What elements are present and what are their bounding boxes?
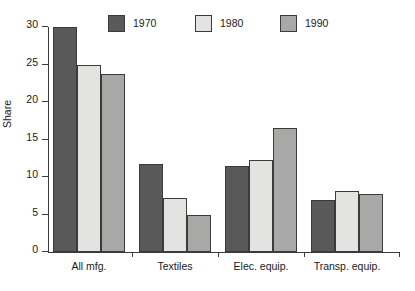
y-axis-tick: 10 bbox=[42, 176, 48, 177]
x-axis-label-all-mfg: All mfg. bbox=[71, 261, 106, 272]
bar-chart-figure: 1970 1980 1990 Share 051015202530 All mf… bbox=[0, 0, 415, 291]
bar-1980-transp-equip bbox=[335, 191, 359, 253]
bar-1990-elec-equip bbox=[273, 128, 297, 253]
x-axis-group-separator-tick bbox=[304, 252, 305, 257]
x-axis-end-tick bbox=[399, 252, 400, 257]
x-axis-group-separator-tick bbox=[132, 252, 133, 257]
y-axis-tick-label: 0 bbox=[32, 244, 38, 255]
y-axis-tick: 20 bbox=[42, 101, 48, 102]
y-axis-tick-label: 30 bbox=[26, 19, 38, 30]
bar-1990-all-mfg bbox=[101, 74, 125, 253]
x-axis-label-elec-equip: Elec. equip. bbox=[234, 261, 289, 272]
bar-1980-elec-equip bbox=[249, 160, 273, 252]
bar-1970-textiles bbox=[139, 164, 163, 252]
y-axis-label: Share bbox=[2, 100, 13, 128]
y-axis-tick-label: 15 bbox=[26, 132, 38, 143]
bar-1990-textiles bbox=[187, 215, 211, 253]
y-axis-tick-label: 20 bbox=[26, 94, 38, 105]
bar-1970-transp-equip bbox=[311, 200, 335, 253]
y-axis-tick: 5 bbox=[42, 214, 48, 215]
bar-1970-all-mfg bbox=[53, 27, 77, 252]
x-axis-line bbox=[48, 252, 400, 253]
y-axis-tick: 15 bbox=[42, 139, 48, 140]
y-axis-tick: 30 bbox=[42, 26, 48, 27]
bar-1990-transp-equip bbox=[359, 194, 383, 252]
plot-area: 051015202530 bbox=[48, 27, 398, 252]
y-axis-tick-label: 25 bbox=[26, 57, 38, 68]
y-axis-tick: 0 bbox=[42, 251, 48, 252]
y-axis-tick-label: 10 bbox=[26, 169, 38, 180]
x-axis-label-textiles: Textiles bbox=[157, 261, 192, 272]
x-axis-group-separator-tick bbox=[218, 252, 219, 257]
x-axis-label-transp-equip: Transp. equip. bbox=[314, 261, 381, 272]
bar-1980-textiles bbox=[163, 198, 187, 252]
bar-1980-all-mfg bbox=[77, 65, 101, 253]
y-axis-tick-label: 5 bbox=[32, 207, 38, 218]
bar-1970-elec-equip bbox=[225, 166, 249, 252]
y-axis-tick: 25 bbox=[42, 64, 48, 65]
